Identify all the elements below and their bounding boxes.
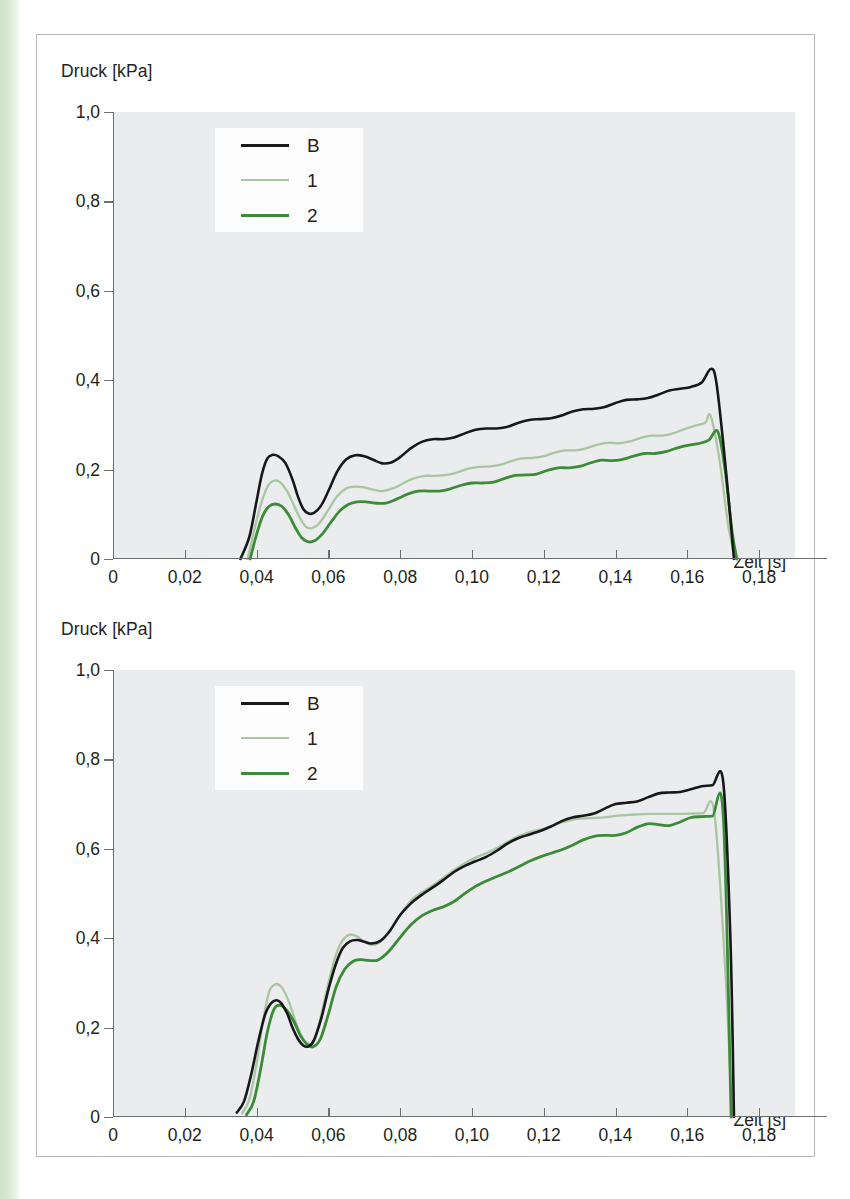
y-tick-label: 0,8 (76, 749, 100, 770)
chart-bottom: Druck [kPa] Zeit [s] B 1 2 (37, 597, 816, 1152)
chart-top: Druck [kPa] Zeit [s] B 1 2 (37, 39, 816, 594)
y-tick-mark (104, 670, 113, 671)
x-tick-label: 0,14 (598, 567, 632, 588)
legend-item-b: B (215, 134, 363, 156)
y-tick-label: 0,8 (76, 191, 100, 212)
x-tick-mark (544, 1108, 545, 1117)
y-tick-mark (104, 201, 113, 202)
x-tick-label: 0,08 (383, 567, 417, 588)
x-tick-mark (185, 550, 186, 559)
y-tick-mark (104, 380, 113, 381)
y-tick-label: 0 (90, 1107, 100, 1128)
series-line-B (240, 369, 734, 559)
x-tick-mark (616, 550, 617, 559)
x-tick-mark (759, 1108, 760, 1117)
legend-swatch-1-icon (241, 179, 289, 181)
x-tick-label: 0,18 (742, 1125, 776, 1146)
series-line-2 (247, 793, 732, 1117)
x-tick-label: 0,04 (240, 567, 274, 588)
x-tick-mark (400, 1108, 401, 1117)
x-tick-mark (687, 550, 688, 559)
legend-swatch-b-icon (241, 702, 289, 705)
y-tick-mark (104, 1028, 113, 1029)
y-tick-mark (104, 849, 113, 850)
x-tick-label: 0,12 (527, 567, 561, 588)
series-line-2 (250, 430, 737, 559)
x-tick-label: 0,14 (598, 1125, 632, 1146)
x-axis-line (113, 558, 827, 559)
x-tick-label: 0,10 (455, 1125, 489, 1146)
y-tick-label: 1,0 (76, 660, 100, 681)
legend-label-b: B (307, 136, 320, 155)
legend-item-1: 1 (215, 169, 363, 191)
plot-area-bottom: B 1 2 00,20,40,60,81,0 00,020,040,060,08… (113, 670, 795, 1117)
page-accent-stripe (0, 0, 21, 1199)
x-tick-label: 0,12 (527, 1125, 561, 1146)
y-tick-mark (104, 291, 113, 292)
x-axis-line (113, 1116, 827, 1117)
x-tick-label: 0,02 (168, 567, 202, 588)
x-tick-label: 0,08 (383, 1125, 417, 1146)
y-tick-label: 0,6 (76, 280, 100, 301)
legend-label-2: 2 (307, 764, 318, 783)
legend-top: B 1 2 (215, 128, 363, 232)
x-tick-mark (687, 1108, 688, 1117)
y-axis-line (113, 670, 114, 1117)
y-tick-label: 0 (90, 549, 100, 570)
legend-item-2: 2 (215, 204, 363, 226)
x-tick-label: 0,16 (670, 567, 704, 588)
y-tick-mark (104, 938, 113, 939)
x-tick-label: 0,06 (311, 567, 345, 588)
x-tick-mark (328, 1108, 329, 1117)
y-tick-label: 0,2 (76, 459, 100, 480)
y-tick-label: 0,4 (76, 928, 100, 949)
x-tick-label: 0 (108, 567, 118, 588)
x-tick-mark (185, 1108, 186, 1117)
series-line-1 (242, 801, 732, 1117)
legend-swatch-b-icon (241, 144, 289, 147)
y-tick-mark (104, 470, 113, 471)
x-tick-mark (400, 550, 401, 559)
y-tick-mark (104, 112, 113, 113)
series-line-B (237, 771, 734, 1117)
legend-label-2: 2 (307, 206, 318, 225)
y-tick-label: 0,4 (76, 370, 100, 391)
y-tick-mark (104, 559, 113, 560)
x-tick-mark (759, 550, 760, 559)
legend-item-2: 2 (215, 762, 363, 784)
x-tick-mark (616, 1108, 617, 1117)
x-tick-mark (257, 1108, 258, 1117)
legend-swatch-2-icon (241, 214, 289, 217)
x-tick-label: 0 (108, 1125, 118, 1146)
y-tick-mark (104, 759, 113, 760)
legend-bottom: B 1 2 (215, 686, 363, 790)
x-tick-label: 0,16 (670, 1125, 704, 1146)
x-tick-label: 0,10 (455, 567, 489, 588)
y-tick-label: 1,0 (76, 102, 100, 123)
legend-label-b: B (307, 694, 320, 713)
y-tick-label: 0,6 (76, 838, 100, 859)
x-tick-label: 0,02 (168, 1125, 202, 1146)
plot-area-top: B 1 2 00,20,40,60,81,0 00,020,040,060,08… (113, 112, 795, 559)
legend-item-1: 1 (215, 727, 363, 749)
legend-swatch-2-icon (241, 772, 289, 775)
x-tick-mark (544, 550, 545, 559)
x-tick-mark (257, 550, 258, 559)
x-tick-mark (328, 550, 329, 559)
legend-item-b: B (215, 692, 363, 714)
x-tick-mark (472, 550, 473, 559)
x-tick-label: 0,04 (240, 1125, 274, 1146)
x-tick-label: 0,06 (311, 1125, 345, 1146)
page-frame: Druck [kPa] Zeit [s] B 1 2 (36, 34, 815, 1157)
legend-label-1: 1 (307, 171, 318, 190)
x-tick-label: 0,18 (742, 567, 776, 588)
y-axis-line (113, 112, 114, 559)
y-tick-label: 0,2 (76, 1017, 100, 1038)
x-tick-mark (472, 1108, 473, 1117)
legend-swatch-1-icon (241, 737, 289, 739)
y-axis-title: Druck [kPa] (61, 61, 153, 82)
y-axis-title: Druck [kPa] (61, 619, 153, 640)
y-tick-mark (104, 1117, 113, 1118)
legend-label-1: 1 (307, 729, 318, 748)
